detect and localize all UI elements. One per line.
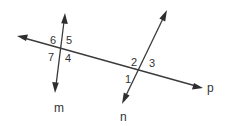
angle-label-5: 5 (66, 34, 72, 46)
angle-label-2: 2 (131, 56, 137, 68)
line-label-n: n (120, 110, 127, 124)
angle-label-4: 4 (65, 52, 71, 64)
angle-label-3: 3 (149, 57, 155, 69)
angle-label-6: 6 (50, 34, 56, 46)
angle-label-7: 7 (48, 51, 54, 63)
line-label-p: p (207, 81, 214, 95)
line-p (17, 35, 203, 90)
arrow-right-icon (192, 83, 203, 90)
arrow-left-icon (17, 35, 28, 42)
arrow-up-icon (61, 13, 68, 24)
line-m-segment (56, 20, 64, 86)
line-label-m: m (54, 101, 64, 115)
arrow-up-icon (159, 10, 167, 22)
line-n (122, 10, 167, 104)
angle-diagram: 6 5 7 4 2 3 1 m n p (0, 0, 225, 126)
arrow-down-icon (122, 93, 130, 105)
angle-label-1: 1 (125, 73, 131, 85)
arrow-down-icon (52, 82, 59, 93)
